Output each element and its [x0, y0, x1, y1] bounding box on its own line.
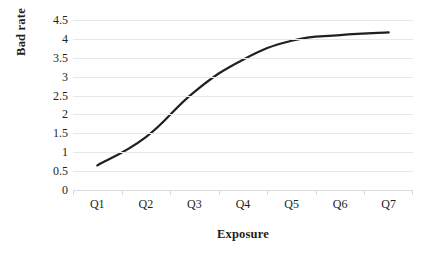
gridline: [73, 96, 413, 97]
x-axis-tick-mark: [364, 190, 365, 195]
x-axis-tick-mark: [219, 190, 220, 195]
x-axis-tick-mark: [122, 190, 123, 195]
y-axis-tick-label: 1: [28, 146, 68, 158]
y-axis-tick-label: 3.5: [28, 52, 68, 64]
gridline: [73, 152, 413, 153]
y-axis-tick-label: 2: [28, 108, 68, 120]
series-path: [97, 32, 388, 165]
x-axis-tick-mark: [73, 190, 74, 195]
y-axis-tick-label: 4: [28, 33, 68, 45]
gridline: [73, 39, 413, 40]
x-axis-tick-label: Q7: [365, 197, 413, 211]
x-axis-tick-label: Q6: [316, 197, 364, 211]
x-axis-tick-marks: [73, 190, 413, 195]
y-axis-tick-label: 4.5: [28, 14, 68, 26]
x-axis-tick-label: Q1: [73, 197, 121, 211]
x-axis-title: Exposure: [73, 227, 413, 242]
x-axis-tick-label: Q3: [170, 197, 218, 211]
x-axis-tick-labels: Q1Q2Q3Q4Q5Q6Q7: [73, 197, 413, 215]
gridline: [73, 20, 413, 21]
y-axis-tick-labels: 00.511.522.533.544.5: [28, 14, 68, 192]
gridline: [73, 114, 413, 115]
y-axis-tick-label: 1.5: [28, 127, 68, 139]
gridline: [73, 77, 413, 78]
x-axis-tick-mark: [267, 190, 268, 195]
x-axis-tick-mark: [316, 190, 317, 195]
x-axis-tick-mark: [412, 190, 413, 195]
x-axis-tick-label: Q4: [219, 197, 267, 211]
y-axis-tick-label: 3: [28, 71, 68, 83]
x-axis-tick-label: Q5: [268, 197, 316, 211]
plot-area: [73, 20, 413, 190]
y-axis-tick-label: 0.5: [28, 165, 68, 177]
gridline: [73, 171, 413, 172]
y-axis-tick-label: 2.5: [28, 90, 68, 102]
gridline: [73, 133, 413, 134]
y-axis-tick-label: 0: [28, 184, 68, 196]
gridline: [73, 58, 413, 59]
series-line-bad-rate: [73, 20, 413, 190]
x-axis-tick-label: Q2: [122, 197, 170, 211]
line-chart: Bad rate 00.511.522.533.544.5 Q1Q2Q3Q4Q5…: [0, 0, 431, 258]
x-axis-tick-mark: [170, 190, 171, 195]
